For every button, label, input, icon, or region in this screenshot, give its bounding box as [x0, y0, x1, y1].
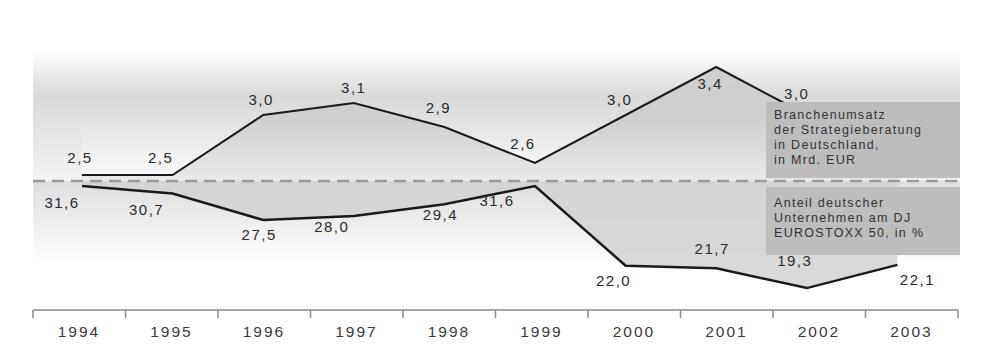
upper-data-label: 3,0	[784, 85, 809, 102]
upper-data-label: 3,0	[249, 91, 274, 108]
legend-lower-line-2: Unternehmen am DJ	[774, 211, 952, 226]
legend-upper-series: Branchenumsatz der Strategieberatung in …	[766, 102, 960, 178]
x-axis-year-label: 2002	[798, 323, 840, 340]
x-axis-tick-labels: 1994199519961997199819992000200120022003	[58, 323, 933, 340]
x-axis-year-label: 1999	[520, 323, 562, 340]
upper-data-label: 2,6	[510, 135, 535, 152]
lower-data-label: 31,6	[44, 194, 79, 211]
x-axis-year-label: 1995	[150, 323, 192, 340]
x-axis-year-label: 1998	[428, 323, 470, 340]
legend-lower-line-1: Anteil deutscher	[774, 196, 952, 211]
upper-data-label: 2,5	[67, 149, 92, 166]
lower-data-label: 27,5	[242, 226, 277, 243]
legend-upper-line-1: Branchenumsatz	[774, 108, 952, 123]
upper-data-label: 3,4	[698, 75, 723, 92]
lower-data-label: 21,7	[695, 240, 730, 257]
lower-data-label: 22,1	[900, 271, 935, 288]
upper-data-label: 2,5	[148, 149, 173, 166]
upper-data-label: 3,1	[341, 79, 366, 96]
legend-lower-line-3: EUROSTOXX 50, in %	[774, 226, 952, 241]
x-axis-year-label: 1996	[243, 323, 285, 340]
lower-data-label: 31,6	[479, 192, 514, 209]
lower-data-label: 30,7	[129, 201, 164, 218]
x-axis-year-label: 1994	[58, 323, 100, 340]
legend-upper-line-4: in Mrd. EUR	[774, 153, 952, 168]
legend-upper-line-3: in Deutschland,	[774, 138, 952, 153]
x-axis-year-label: 1997	[335, 323, 377, 340]
lower-data-label: 28,0	[314, 218, 349, 235]
lower-data-label: 22,0	[596, 272, 631, 289]
upper-data-label: 2,9	[426, 99, 451, 116]
lower-data-label: 29,4	[423, 206, 458, 223]
x-axis-year-label: 2003	[890, 323, 932, 340]
x-axis-year-label: 2001	[705, 323, 747, 340]
legend-upper-line-2: der Strategieberatung	[774, 123, 952, 138]
line-chart: 2,52,53,03,12,92,63,03,43,02,9 31,630,72…	[0, 0, 989, 364]
legend-lower-series: Anteil deutscher Unternehmen am DJ EUROS…	[766, 187, 960, 255]
x-axis-year-label: 2000	[613, 323, 655, 340]
upper-data-label: 3,0	[607, 91, 632, 108]
x-axis-ticks	[33, 310, 958, 318]
